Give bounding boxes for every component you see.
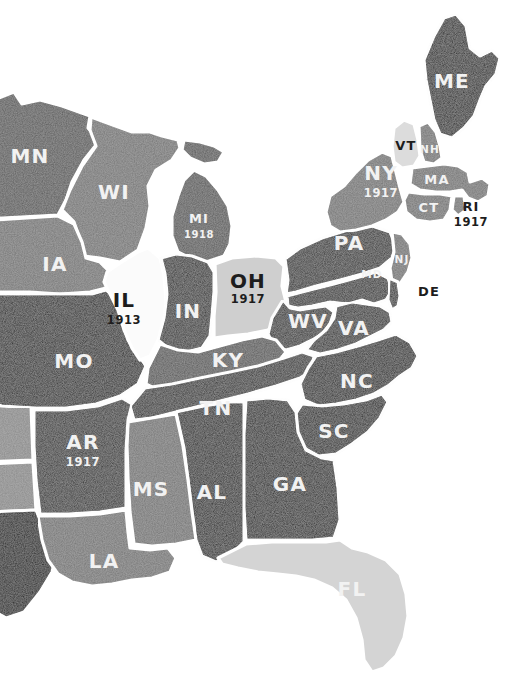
- state-CT[interactable]: [404, 192, 452, 222]
- state-RI[interactable]: [452, 196, 466, 216]
- state-AR[interactable]: [34, 398, 132, 514]
- region-edge-oklahoma: [0, 462, 36, 512]
- map-container: ME VT NH MA CT RI 1917 NY 1917 PA NJ: [0, 0, 526, 679]
- state-IN[interactable]: [158, 254, 214, 352]
- us-eastern-states-map: ME VT NH MA CT RI 1917 NY 1917 PA NJ: [0, 0, 526, 679]
- state-DE[interactable]: [388, 278, 400, 310]
- state-VT[interactable]: [392, 120, 420, 168]
